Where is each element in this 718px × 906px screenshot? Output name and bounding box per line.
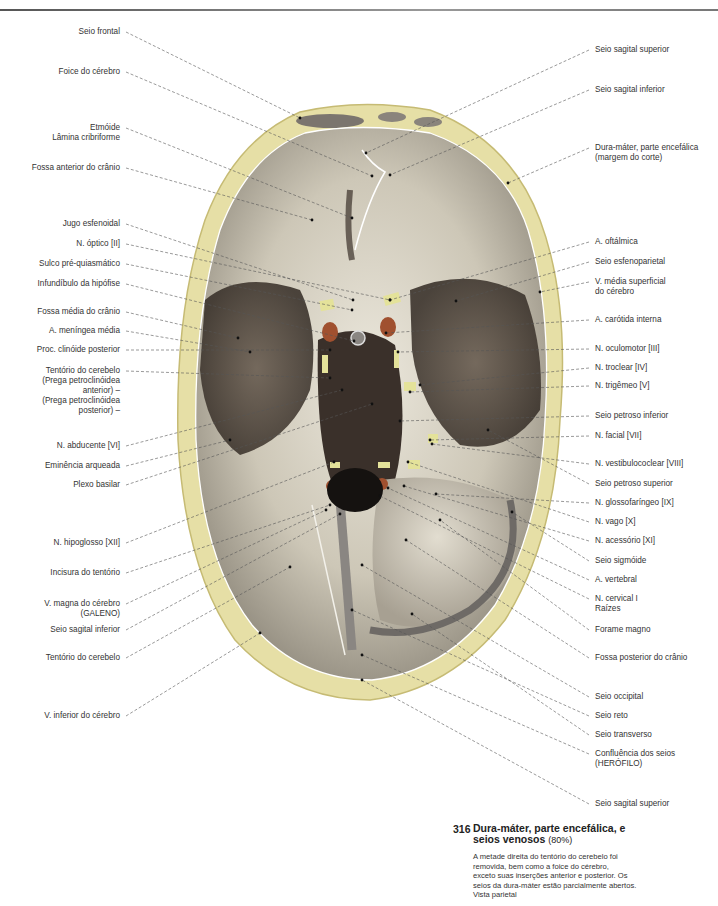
leader-endpoint bbox=[429, 439, 432, 442]
anatomy-label: N. trigêmeo [V] bbox=[595, 381, 650, 391]
leader-endpoint bbox=[341, 389, 344, 392]
leader-endpoint bbox=[361, 564, 364, 567]
anatomy-label-line: Seio occipital bbox=[595, 692, 643, 702]
anatomy-label: A. meníngea média bbox=[49, 326, 120, 336]
anatomy-label-line: Tentório do cerebelo bbox=[46, 653, 120, 663]
anatomy-label: Seio reto bbox=[595, 711, 628, 721]
anatomy-label: N. hipoglosso [XII] bbox=[54, 538, 120, 548]
anatomy-label-line: Proc. clinóide posterior bbox=[37, 345, 120, 355]
anatomy-label-line: (Prega petroclinóidea bbox=[42, 396, 120, 406]
anatomy-label-line: A. vertebral bbox=[595, 575, 637, 585]
anatomy-label-line: Fossa média do crânio bbox=[37, 307, 120, 317]
leader-endpoint bbox=[289, 566, 292, 569]
anatomy-label: V. inferior do cérebro bbox=[44, 711, 120, 721]
anatomy-label: N. abducente [VI] bbox=[57, 441, 120, 451]
anatomy-label: Fossa posterior do crânio bbox=[595, 653, 687, 663]
leader-endpoint bbox=[387, 487, 390, 490]
anatomy-label: N. vago [X] bbox=[595, 517, 636, 527]
anatomy-label-line: Infundíbulo da hipófise bbox=[38, 279, 120, 289]
anatomy-label-line: N. óptico [II] bbox=[76, 239, 120, 249]
anatomy-label-line: Incisura do tentório bbox=[50, 568, 120, 578]
anatomy-label-line: Foice do cérebro bbox=[59, 67, 120, 77]
anatomy-label: Seio sagital superior bbox=[595, 799, 669, 809]
anatomy-label-line: Seio esfenoparietal bbox=[595, 257, 665, 267]
anatomy-label-line: N. hipoglosso [XII] bbox=[54, 538, 120, 548]
leader-endpoint bbox=[539, 291, 542, 294]
figure-scale: (80%) bbox=[548, 835, 572, 845]
leader-endpoint bbox=[351, 609, 354, 612]
anatomy-label: N. vestibulococlear [VIII] bbox=[595, 459, 683, 469]
anatomy-label: N. troclear [IV] bbox=[595, 363, 647, 373]
leader-endpoint bbox=[371, 175, 374, 178]
leader-line bbox=[362, 680, 589, 804]
leader-endpoint bbox=[351, 309, 354, 312]
leader-endpoint bbox=[409, 391, 412, 394]
anatomy-label: Seio sagital inferior bbox=[595, 85, 665, 95]
leader-endpoint bbox=[311, 219, 314, 222]
anatomy-label-line: N. glossofaríngeo [IX] bbox=[595, 498, 674, 508]
anatomy-label: Seio frontal bbox=[79, 27, 120, 37]
anatomy-label-line: Lâmina cribriforme bbox=[52, 133, 120, 143]
anatomy-label-line: Jugo esfenoidal bbox=[63, 219, 120, 229]
leader-endpoint bbox=[419, 384, 422, 387]
leader-endpoint bbox=[249, 351, 252, 354]
leader-endpoint bbox=[329, 504, 332, 507]
anatomy-label: Fossa anterior do crânio bbox=[32, 163, 120, 173]
leader-line bbox=[362, 655, 589, 754]
leader-endpoint bbox=[333, 461, 336, 464]
anatomy-label: Seio sagital superior bbox=[595, 45, 669, 55]
anatomy-label-line: Forame magno bbox=[595, 625, 651, 635]
leader-endpoint bbox=[361, 654, 364, 657]
anatomy-label-line: N. vago [X] bbox=[595, 517, 636, 527]
anatomy-label: Dura-máter, parte encefálica(margem do c… bbox=[595, 143, 698, 163]
anatomy-label-line: N. cervical I bbox=[595, 594, 638, 604]
anatomy-label: Infundíbulo da hipófise bbox=[38, 279, 120, 289]
leader-endpoint bbox=[353, 340, 356, 343]
anatomy-label: Plexo basilar bbox=[73, 480, 120, 490]
anatomy-label-line: Tentório do cerebelo bbox=[42, 366, 120, 376]
description-line: Vista parietal bbox=[473, 890, 703, 900]
figure-title-line2: seios venosos bbox=[473, 833, 545, 845]
anatomy-label-line: Seio sagital superior bbox=[595, 799, 669, 809]
anatomy-label-line: Fossa posterior do crânio bbox=[595, 653, 687, 663]
anatomy-label-line: (GALENO) bbox=[44, 609, 120, 619]
leader-line bbox=[126, 32, 300, 118]
anatomy-label-line: V. média superficial bbox=[595, 277, 666, 287]
anatomy-label: N. glossofaríngeo [IX] bbox=[595, 498, 674, 508]
leader-endpoint bbox=[385, 332, 388, 335]
anatomy-label-line: Sulco pré-quiasmático bbox=[39, 259, 120, 269]
anatomy-label: Seio esfenoparietal bbox=[595, 257, 665, 267]
anatomy-label-line: Plexo basilar bbox=[73, 480, 120, 490]
anatomy-label: N. oculomotor [III] bbox=[595, 344, 660, 354]
anatomy-label: Seio sagital inferior bbox=[50, 625, 120, 635]
anatomy-label-line: Seio frontal bbox=[79, 27, 120, 37]
anatomy-label-line: Etmóide bbox=[52, 123, 120, 133]
anatomy-label: EtmóideLâmina cribriforme bbox=[52, 123, 120, 143]
leader-endpoint bbox=[455, 300, 458, 303]
leader-endpoint bbox=[487, 429, 490, 432]
anatomy-label-line: Seio reto bbox=[595, 711, 628, 721]
anatomy-label: Seio petroso superior bbox=[595, 479, 673, 489]
anatomy-label: V. magna do cérebro(GALENO) bbox=[44, 599, 120, 619]
leader-endpoint bbox=[365, 152, 368, 155]
leader-endpoint bbox=[339, 513, 342, 516]
leader-endpoint bbox=[399, 420, 402, 423]
anatomy-label: Forame magno bbox=[595, 625, 651, 635]
anatomy-label-line: A. meníngea média bbox=[49, 326, 120, 336]
anatomy-label: V. média superficialdo cérebro bbox=[595, 277, 666, 297]
anatomy-label: N. óptico [II] bbox=[76, 239, 120, 249]
leader-endpoint bbox=[511, 511, 514, 514]
leader-endpoint bbox=[439, 519, 442, 522]
anatomy-label-line: N. abducente [VI] bbox=[57, 441, 120, 451]
anatomy-label: Tentório do cerebelo bbox=[46, 653, 120, 663]
anatomy-label-line: Eminência arqueada bbox=[45, 461, 120, 471]
leader-endpoint bbox=[397, 351, 400, 354]
anatomy-label: A. vertebral bbox=[595, 575, 637, 585]
leader-endpoint bbox=[407, 461, 410, 464]
leader-endpoint bbox=[389, 174, 392, 177]
leader-endpoint bbox=[352, 299, 355, 302]
anatomy-label-line: N. troclear [IV] bbox=[595, 363, 647, 373]
description-line: A metade direita do tentório do cerebelo… bbox=[473, 852, 703, 862]
anatomy-label-line: N. acessório [XI] bbox=[595, 536, 655, 546]
anatomy-label-line: Seio sagital inferior bbox=[595, 85, 665, 95]
